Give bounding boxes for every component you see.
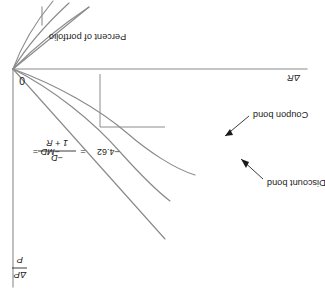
- discount-bond-arrow-icon: [241, 159, 249, 168]
- discount-bond-curve: [13, 69, 170, 201]
- slope-annotation-group: −MD = −D 1 + R = −4.62: [33, 138, 120, 163]
- y-axis-numerator: ΔP: [13, 270, 27, 280]
- y-axis-label-group: ΔP P: [12, 255, 27, 280]
- discount-bond-label: Discount bond: [267, 178, 325, 188]
- price-yield-plot: 0 ΔR ΔP P Discount bond Coupon bond −MD …: [0, 0, 325, 299]
- slope-fraction-numerator: −D: [51, 153, 63, 163]
- slope-value-label: −4.62: [97, 147, 120, 157]
- coupon-bond-label: Coupon bond: [253, 110, 308, 120]
- rotated-plot-canvas: 0 ΔR ΔP P Discount bond Coupon bond −MD …: [0, 0, 325, 299]
- origin-label: 0: [19, 75, 25, 87]
- figure-caption: Percent of portfolio: [49, 32, 126, 42]
- slope-equals-sign: =: [80, 147, 85, 157]
- y-axis-denominator: P: [16, 255, 23, 265]
- x-axis-label: ΔR: [287, 73, 301, 83]
- bond-duration-figure: 0 ΔR ΔP P Discount bond Coupon bond −MD …: [0, 0, 325, 299]
- slope-fraction-denominator: 1 + R: [46, 138, 68, 148]
